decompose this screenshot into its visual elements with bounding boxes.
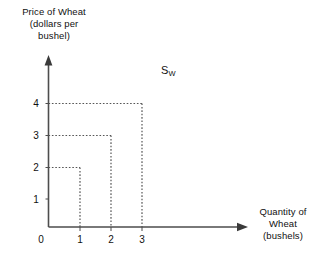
supply-curve-label: SW xyxy=(161,64,176,76)
y-tick-label-1: 1 xyxy=(28,194,44,205)
y-axis-title: Price of Wheat (dollars per bushel) xyxy=(6,6,102,42)
x-tick-label-3: 3 xyxy=(134,234,150,245)
x-tick-label-0: 0 xyxy=(33,234,49,245)
x-axis-title: Quantity of Wheat (bushels) xyxy=(250,206,316,242)
y-tick-label-3: 3 xyxy=(28,130,44,141)
x-axis-arrowhead xyxy=(237,223,248,231)
x-tick-label-1: 1 xyxy=(72,234,88,245)
curve-label-subscript: W xyxy=(169,69,176,78)
x-tick-label-2: 2 xyxy=(103,234,119,245)
supply-curve-figure: Price of Wheat (dollars per bushel) Quan… xyxy=(0,0,318,263)
y-axis-arrowhead xyxy=(45,55,53,66)
y-tick-label-4: 4 xyxy=(28,98,44,109)
y-tick-label-2: 2 xyxy=(28,162,44,173)
curve-label-letter: S xyxy=(161,64,169,76)
